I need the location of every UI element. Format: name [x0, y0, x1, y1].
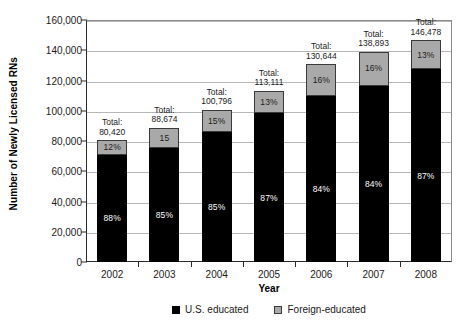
x-axis-tick-mark: [138, 262, 139, 267]
bar-stack[interactable]: 1585%: [149, 128, 179, 262]
y-axis-tick-label: 20,000: [12, 226, 82, 237]
bar-segment-us-educated[interactable]: 84%: [306, 96, 336, 262]
x-axis-tick-mark: [400, 262, 401, 267]
bar-segment-us-educated[interactable]: 87%: [411, 69, 441, 262]
bar-segment-foreign-educated[interactable]: 13%: [254, 91, 284, 113]
bar-total-label: Total:80,420: [99, 118, 125, 137]
bar-stack[interactable]: 12%88%: [97, 140, 127, 262]
y-axis-tick-label: 100,000: [12, 105, 82, 116]
bar-segment-label: 87%: [417, 172, 434, 181]
bar-segment-label: 12%: [103, 143, 120, 152]
bar-total-label-value: 146,478: [410, 28, 441, 38]
gray-square-icon: [274, 306, 282, 314]
stacked-bar-chart: Number of Newly Licensed RNs 020,00040,0…: [0, 0, 465, 328]
bar-segment-us-educated[interactable]: 85%: [149, 148, 179, 262]
bar-segment-foreign-educated[interactable]: 15%: [202, 110, 232, 133]
bar-group[interactable]: Total:138,89316%84%: [347, 20, 399, 262]
bar-segment-label: 15%: [208, 117, 225, 126]
bar-total-label-value: 88,674: [151, 115, 177, 125]
legend-label-foreign-educated: Foreign-educated: [287, 304, 365, 315]
chart-legend: U.S. educated Foreign-educated: [86, 304, 452, 315]
bar-total-label-value: 80,420: [99, 128, 125, 138]
y-axis-tick-label: 120,000: [12, 75, 82, 86]
bar-group[interactable]: Total:100,79615%85%: [191, 20, 243, 262]
bar-segment-foreign-educated[interactable]: 16%: [306, 64, 336, 96]
bar-total-label: Total:113,111: [255, 69, 284, 88]
bar-total-label: Total:88,674: [151, 106, 177, 125]
x-axis-tick-label: 2004: [187, 269, 247, 280]
bar-segment-foreign-educated[interactable]: 15: [149, 128, 179, 148]
bar-stack[interactable]: 16%84%: [359, 52, 389, 262]
bar-group[interactable]: Total:88,6741585%: [138, 20, 190, 262]
bar-segment-label: 16%: [365, 64, 382, 73]
bar-total-label: Total:146,478: [410, 18, 441, 37]
bar-segment-label: 13%: [417, 51, 434, 60]
bar-total-label-value: 138,893: [358, 39, 389, 49]
bar-total-label: Total:138,893: [358, 30, 389, 49]
y-axis-tick-label: 140,000: [12, 45, 82, 56]
x-axis-tick-label: 2005: [239, 269, 299, 280]
y-axis-tick-label: 160,000: [12, 15, 82, 26]
black-square-icon: [172, 306, 180, 314]
x-axis-tick-label: 2002: [82, 269, 142, 280]
bar-stack[interactable]: 13%87%: [254, 91, 284, 262]
bar-segment-us-educated[interactable]: 88%: [97, 155, 127, 262]
bar-segment-foreign-educated[interactable]: 13%: [411, 40, 441, 69]
bar-segment-us-educated[interactable]: 87%: [254, 113, 284, 262]
bar-segment-label: 13%: [260, 98, 277, 107]
x-axis-tick-mark: [295, 262, 296, 267]
bar-segment-us-educated[interactable]: 84%: [359, 86, 389, 262]
y-axis-tick-label: 0: [12, 257, 82, 268]
bar-segment-label: 16%: [313, 76, 330, 85]
bar-group[interactable]: Total:146,47813%87%: [400, 20, 452, 262]
bar-total-label: Total:130,644: [306, 42, 337, 61]
bar-stack[interactable]: 16%84%: [306, 64, 336, 262]
bar-segment-label: 85%: [156, 211, 173, 220]
bar-segment-foreign-educated[interactable]: 12%: [97, 140, 127, 155]
bar-total-label-value: 130,644: [306, 52, 337, 62]
bar-stack[interactable]: 15%85%: [202, 110, 232, 262]
x-axis-tick-mark: [191, 262, 192, 267]
y-axis-tick-label: 40,000: [12, 196, 82, 207]
bar-segment-label: 87%: [260, 194, 277, 203]
y-axis-tick-label: 80,000: [12, 136, 82, 147]
bar-segment-label: 84%: [313, 185, 330, 194]
x-axis-tick-mark: [347, 262, 348, 267]
bar-group[interactable]: Total:113,11113%87%: [243, 20, 295, 262]
bar-group[interactable]: Total:80,42012%88%: [86, 20, 138, 262]
bar-segment-label: 88%: [103, 214, 120, 223]
bar-segment-foreign-educated[interactable]: 16%: [359, 52, 389, 86]
x-axis-tick-label: 2007: [344, 269, 404, 280]
bar-stack[interactable]: 13%87%: [411, 40, 441, 262]
bar-total-label: Total:100,796: [201, 88, 232, 107]
x-axis-tick-label: 2008: [396, 269, 456, 280]
x-axis-tick-label: 2003: [134, 269, 194, 280]
bar-group[interactable]: Total:130,64416%84%: [295, 20, 347, 262]
legend-item-us-educated: U.S. educated: [172, 304, 248, 315]
bar-segment-label: 15: [160, 134, 170, 143]
x-axis-tick-label: 2006: [291, 269, 351, 280]
bar-segment-us-educated[interactable]: 85%: [202, 132, 232, 262]
x-axis-title: Year: [86, 283, 452, 294]
bar-total-label-value: 113,111: [255, 78, 284, 88]
legend-item-foreign-educated: Foreign-educated: [274, 304, 365, 315]
y-axis-tick-label: 60,000: [12, 166, 82, 177]
bar-segment-label: 84%: [365, 180, 382, 189]
x-axis-tick-mark: [243, 262, 244, 267]
bar-total-label-value: 100,796: [201, 97, 232, 107]
bars-layer: Total:80,42012%88%Total:88,6741585%Total…: [86, 20, 452, 262]
bar-segment-label: 85%: [208, 203, 225, 212]
legend-label-us-educated: U.S. educated: [185, 304, 248, 315]
